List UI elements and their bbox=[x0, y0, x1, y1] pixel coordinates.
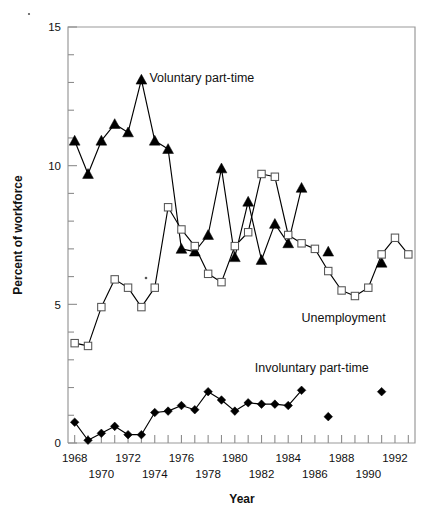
x-tick-label: 1968 bbox=[62, 452, 88, 464]
marker-diamond bbox=[324, 412, 333, 421]
marker-square bbox=[98, 303, 105, 310]
marker-square bbox=[138, 303, 145, 310]
y-tick-label: 15 bbox=[48, 21, 61, 33]
marker-square bbox=[111, 276, 118, 283]
marker-square bbox=[298, 240, 305, 247]
series-line bbox=[75, 390, 302, 440]
plot-frame bbox=[68, 27, 415, 443]
marker-square bbox=[365, 284, 372, 291]
x-tick-label: 1980 bbox=[222, 452, 248, 464]
y-tick-label: 0 bbox=[55, 437, 61, 449]
marker-triangle bbox=[163, 144, 174, 154]
marker-triangle bbox=[176, 243, 187, 253]
marker-triangle bbox=[69, 135, 80, 145]
marker-triangle bbox=[269, 219, 280, 229]
workforce-line-chart: 051015 196819721976198019841988199219701… bbox=[0, 0, 430, 520]
marker-triangle bbox=[83, 169, 94, 179]
marker-diamond bbox=[124, 430, 133, 439]
y-axis-tick-labels: 051015 bbox=[48, 21, 61, 449]
series-voluntary-part-time bbox=[69, 74, 307, 264]
marker-square bbox=[391, 234, 398, 241]
marker-diamond bbox=[97, 429, 106, 438]
marker-square bbox=[84, 342, 91, 349]
y-tick-label: 10 bbox=[48, 160, 61, 172]
marker-square bbox=[204, 270, 211, 277]
x-tick-label: 1976 bbox=[169, 452, 195, 464]
x-tick-label: 1982 bbox=[249, 468, 275, 480]
marker-triangle bbox=[136, 74, 147, 84]
series-involuntary-part-time bbox=[70, 386, 305, 445]
marker-square bbox=[218, 278, 225, 285]
marker-diamond bbox=[244, 398, 253, 407]
marker-square bbox=[258, 170, 265, 177]
marker-square bbox=[178, 226, 185, 233]
x-tick-label: 1978 bbox=[195, 468, 221, 480]
marker-square bbox=[231, 242, 238, 249]
marker-diamond bbox=[190, 405, 199, 414]
marker-diamond bbox=[150, 408, 159, 417]
series-involuntary-part-time-isolated bbox=[324, 387, 386, 421]
annotation-label: Unemployment bbox=[302, 311, 387, 325]
marker-diamond bbox=[204, 387, 213, 396]
marker-square bbox=[151, 284, 158, 291]
marker-square bbox=[244, 229, 251, 236]
x-tick-label: 1988 bbox=[329, 452, 355, 464]
marker-square bbox=[124, 284, 131, 291]
marker-triangle bbox=[216, 163, 227, 173]
x-axis-ticks bbox=[75, 435, 409, 443]
x-axis-title: Year bbox=[229, 492, 255, 506]
y-axis-ticks bbox=[68, 27, 77, 443]
marker-square bbox=[271, 173, 278, 180]
marker-square bbox=[351, 292, 358, 299]
x-tick-label: 1990 bbox=[355, 468, 381, 480]
y-tick-label: 5 bbox=[55, 299, 61, 311]
marker-square bbox=[311, 245, 318, 252]
x-tick-label: 1986 bbox=[302, 468, 328, 480]
marker-diamond bbox=[271, 400, 280, 409]
scan-speck-icon bbox=[145, 277, 148, 280]
y-axis-title: Percent of workforce bbox=[11, 175, 25, 295]
marker-square bbox=[405, 251, 412, 258]
marker-triangle bbox=[109, 119, 120, 129]
marker-diamond bbox=[110, 422, 119, 431]
x-tick-label: 1992 bbox=[382, 452, 408, 464]
marker-square bbox=[164, 204, 171, 211]
marker-square bbox=[338, 287, 345, 294]
marker-triangle bbox=[256, 255, 267, 265]
chart-container: 051015 196819721976198019841988199219701… bbox=[0, 0, 430, 520]
x-tick-label: 1974 bbox=[142, 468, 168, 480]
marker-diamond bbox=[177, 401, 186, 410]
marker-diamond bbox=[377, 387, 386, 396]
annotation-label: Voluntary part-time bbox=[149, 71, 254, 85]
marker-square bbox=[285, 231, 292, 238]
x-axis-tick-labels: 1968197219761980198419881992197019741978… bbox=[62, 452, 408, 480]
marker-square bbox=[378, 251, 385, 258]
marker-diamond bbox=[257, 400, 266, 409]
marker-triangle bbox=[323, 246, 334, 256]
marker-diamond bbox=[164, 407, 173, 416]
marker-triangle bbox=[283, 238, 294, 248]
series-line bbox=[75, 80, 302, 260]
marker-triangle bbox=[203, 230, 214, 240]
marker-diamond bbox=[137, 430, 146, 439]
scan-speck-icon bbox=[28, 13, 30, 15]
data-series-layer bbox=[69, 74, 412, 444]
marker-square bbox=[325, 267, 332, 274]
annotation-label: Involuntary part-time bbox=[255, 361, 369, 375]
marker-triangle bbox=[149, 135, 160, 145]
marker-triangle bbox=[376, 257, 387, 267]
x-tick-label: 1984 bbox=[275, 452, 301, 464]
marker-triangle bbox=[243, 196, 254, 206]
x-tick-label: 1972 bbox=[115, 452, 141, 464]
marker-triangle bbox=[123, 127, 134, 137]
marker-square bbox=[191, 242, 198, 249]
marker-diamond bbox=[70, 418, 79, 427]
series-annotations: Voluntary part-timeUnemploymentInvolunta… bbox=[149, 71, 386, 375]
marker-square bbox=[71, 339, 78, 346]
x-tick-label: 1970 bbox=[89, 468, 115, 480]
marker-triangle bbox=[296, 182, 307, 192]
